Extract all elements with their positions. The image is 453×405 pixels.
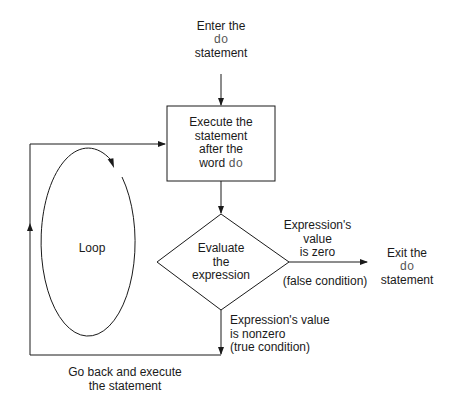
false-condition: (false condition) (280, 275, 370, 289)
true-line3: (true condition) (230, 341, 330, 355)
start-keyword: do (181, 34, 261, 48)
start-line3: statement (181, 47, 261, 61)
decision-label: Evaluate the expression (171, 242, 271, 283)
exit-line1: Exit the (372, 247, 442, 261)
back-edge-up-arrowhead (27, 223, 33, 231)
process-line4: word do (167, 157, 275, 172)
process-line2: statement (167, 130, 275, 144)
back-edge-label: Go back and execute the statement (60, 366, 190, 393)
process-label: Execute the statement after the word do (167, 116, 275, 171)
true-branch-label: Expression's value is nonzero (true cond… (230, 314, 330, 355)
back-line1: Go back and execute (60, 366, 190, 380)
false-condition-label: (false condition) (280, 275, 370, 289)
loop-text: Loop (72, 242, 112, 256)
exit-line3: statement (372, 274, 442, 288)
false-line1: Expression's (280, 219, 355, 233)
process-line1: Execute the (167, 116, 275, 130)
true-line2: is nonzero (230, 328, 330, 342)
start-label: Enter the do statement (181, 20, 261, 61)
process-keyword: do (228, 157, 242, 171)
flowchart-canvas (0, 0, 453, 405)
process-line3: after the (167, 143, 275, 157)
start-line1: Enter the (181, 20, 261, 34)
false-line3: is zero (280, 246, 355, 260)
decision-line2: the (171, 256, 271, 270)
back-line2: the statement (60, 380, 190, 394)
true-line1: Expression's value (230, 314, 330, 328)
exit-keyword: do (372, 261, 442, 275)
loop-label: Loop (72, 242, 112, 256)
loop-arrowhead (106, 157, 118, 169)
decision-line3: expression (171, 269, 271, 283)
exit-label: Exit the do statement (372, 247, 442, 288)
false-branch-label: Expression's value is zero (280, 219, 355, 260)
false-line2: value (280, 233, 355, 247)
decision-line1: Evaluate (171, 242, 271, 256)
process-line4-prefix: word (199, 156, 228, 170)
